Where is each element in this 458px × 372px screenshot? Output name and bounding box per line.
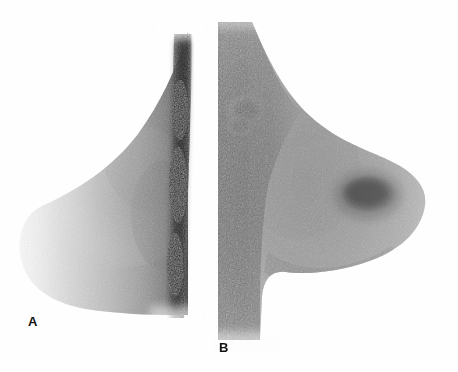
panel-label-a: A bbox=[28, 315, 37, 328]
panel-label-b: B bbox=[219, 341, 228, 354]
scintigram-canvas bbox=[0, 0, 458, 372]
scintigram-figure: A B bbox=[0, 0, 458, 372]
